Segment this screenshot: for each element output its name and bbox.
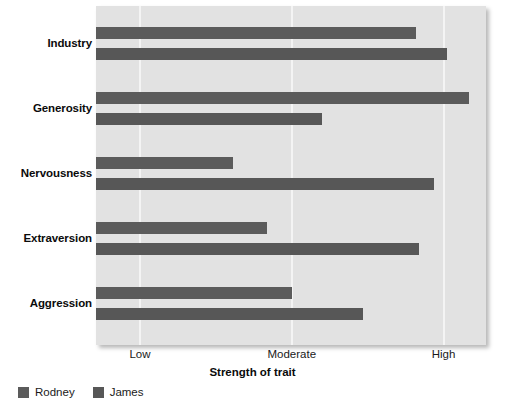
chart-legend: RodneyJames [18, 386, 144, 398]
bar-nervousness-james[interactable] [96, 178, 434, 190]
legend-swatch-rodney [18, 387, 29, 398]
tick-label-moderate: Moderate [232, 348, 352, 360]
category-label-industry: Industry [0, 37, 92, 49]
bar-extraversion-rodney[interactable] [96, 222, 267, 234]
bar-extraversion-james[interactable] [96, 243, 419, 255]
plot-area [96, 6, 486, 345]
category-label-extraversion: Extraversion [0, 232, 92, 244]
bar-nervousness-rodney[interactable] [96, 157, 233, 169]
legend-entry-rodney[interactable]: Rodney [18, 386, 75, 398]
legend-label-rodney: Rodney [35, 386, 75, 398]
bar-aggression-james[interactable] [96, 308, 363, 320]
category-label-nervousness: Nervousness [0, 167, 92, 179]
x-axis-title: Strength of trait [0, 366, 505, 378]
bar-industry-rodney[interactable] [96, 27, 416, 39]
tick-label-low: Low [80, 348, 200, 360]
legend-swatch-james [93, 387, 104, 398]
category-label-aggression: Aggression [0, 297, 92, 309]
category-label-generosity: Generosity [0, 102, 92, 114]
tick-label-high: High [384, 348, 504, 360]
bar-generosity-james[interactable] [96, 113, 322, 125]
bar-aggression-rodney[interactable] [96, 287, 292, 299]
bar-industry-james[interactable] [96, 48, 447, 60]
legend-entry-james[interactable]: James [93, 386, 144, 398]
bar-generosity-rodney[interactable] [96, 92, 469, 104]
legend-label-james: James [110, 386, 144, 398]
bar-chart-figure: IndustryGenerosityNervousnessExtraversio… [0, 0, 505, 406]
